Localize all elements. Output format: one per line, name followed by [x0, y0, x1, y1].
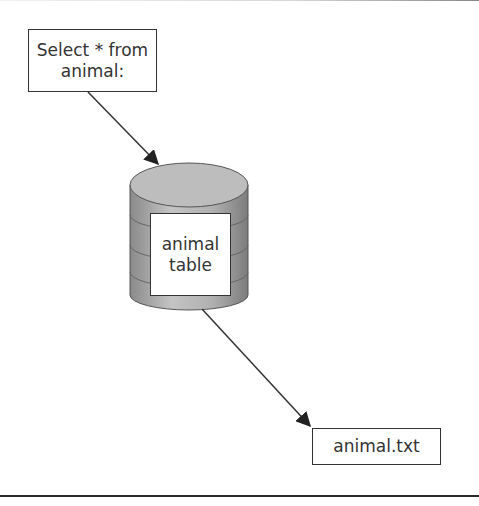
bottom-border — [0, 495, 479, 497]
arrow-db-to-file — [202, 309, 310, 426]
table-label-line-2: table — [169, 255, 212, 276]
arrow-query-to-db — [88, 92, 158, 164]
query-line-1: Select * from — [37, 40, 148, 61]
output-file-label: animal.txt — [333, 436, 419, 457]
table-label-box: animal table — [150, 213, 231, 296]
sql-query-box: Select * from animal: — [28, 29, 157, 92]
table-label-line-1: animal — [162, 234, 220, 255]
output-file-box: animal.txt — [312, 428, 441, 465]
query-line-2: animal: — [37, 61, 148, 82]
